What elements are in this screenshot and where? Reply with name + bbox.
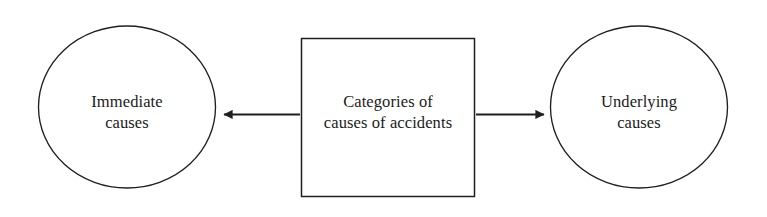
diagram-canvas: Immediate causes Categories of causes of… (0, 0, 767, 217)
node-shape-immediate-causes[interactable] (39, 26, 216, 188)
diagram-shapes (0, 0, 767, 217)
node-shape-underlying-causes[interactable] (551, 26, 728, 188)
node-shape-categories-of-causes[interactable] (302, 39, 475, 197)
